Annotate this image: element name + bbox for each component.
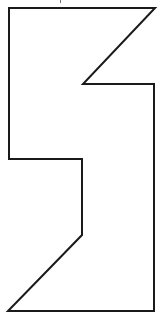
diagram-canvas	[0, 0, 166, 321]
polygon-diagram	[0, 0, 166, 321]
s-shaped-polygon-outline	[8, 8, 155, 311]
top-edge-artifact-mark	[60, 0, 61, 3]
